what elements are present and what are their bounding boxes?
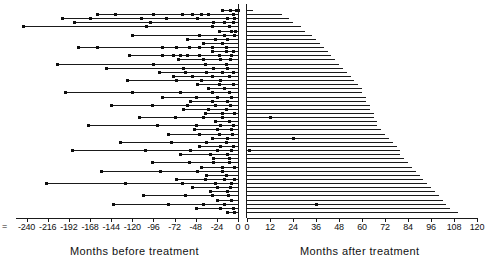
event-line-before xyxy=(217,200,238,201)
timeline-row-after xyxy=(247,59,479,60)
event-marker xyxy=(193,128,196,131)
axis-tick-label: 108 xyxy=(443,222,465,232)
event-marker xyxy=(226,100,229,103)
event-marker xyxy=(233,211,236,214)
timeline-row-before xyxy=(0,31,239,32)
event-marker xyxy=(151,104,154,107)
event-marker xyxy=(228,25,231,28)
followup-line-after xyxy=(247,167,412,168)
event-marker xyxy=(228,91,231,94)
event-marker xyxy=(230,30,233,33)
timeline-row-before xyxy=(0,117,239,118)
event-marker xyxy=(198,133,201,136)
timeline-row-after xyxy=(247,129,479,130)
event-line-before xyxy=(120,142,238,143)
event-marker xyxy=(196,170,199,173)
timeline-row-before xyxy=(0,158,239,159)
event-marker xyxy=(198,34,201,37)
followup-line-after xyxy=(247,72,347,73)
event-marker xyxy=(73,21,76,24)
timeline-row-after xyxy=(247,125,479,126)
axis-tick-label: -240 xyxy=(16,222,38,232)
followup-line-after xyxy=(247,113,374,114)
axis-tick-label: 72 xyxy=(374,222,396,232)
followup-line-after xyxy=(247,142,393,143)
event-marker xyxy=(214,182,217,185)
left-x-axis xyxy=(16,218,239,219)
event-line-before xyxy=(101,171,238,172)
followup-line-after xyxy=(247,68,343,69)
followup-line-after xyxy=(247,134,385,135)
timeline-row-after xyxy=(247,167,479,168)
axis-tick-label: -144 xyxy=(100,222,122,232)
event-marker xyxy=(232,13,235,16)
event-marker xyxy=(226,17,229,20)
event-marker xyxy=(225,46,228,49)
timeline-row-after xyxy=(247,154,479,155)
timeline-row-after xyxy=(247,138,479,139)
followup-line-after xyxy=(247,138,389,139)
followup-line-after xyxy=(247,150,400,151)
event-marker xyxy=(233,178,236,181)
followup-line-after xyxy=(247,26,301,27)
timeline-row-before xyxy=(0,92,239,93)
axis-tick-label: 12 xyxy=(259,222,281,232)
timeline-row-before xyxy=(0,39,239,40)
timeline-row-before xyxy=(0,10,239,11)
event-marker xyxy=(181,182,184,185)
followup-line-after xyxy=(247,146,397,147)
timeline-row-before xyxy=(0,68,239,69)
event-marker xyxy=(221,166,224,169)
event-marker xyxy=(221,170,224,173)
axis-tick-label: 24 xyxy=(282,222,304,232)
timeline-row-after xyxy=(247,80,479,81)
timeline-row-after xyxy=(247,22,479,23)
event-marker xyxy=(218,83,221,86)
event-marker xyxy=(223,34,226,37)
timeline-row-after xyxy=(247,43,479,44)
followup-line-after xyxy=(247,43,320,44)
timeline-row-before xyxy=(0,109,239,110)
timeline-row-before xyxy=(0,84,239,85)
followup-line-after xyxy=(247,195,439,196)
timeline-row-before xyxy=(0,76,239,77)
event-marker xyxy=(211,50,214,53)
event-marker xyxy=(202,42,205,45)
timeline-row-before xyxy=(0,18,239,19)
followup-line-after xyxy=(247,204,446,205)
timeline-row-before xyxy=(0,59,239,60)
axis-tick-label: -24 xyxy=(206,222,228,232)
timeline-row-before xyxy=(0,113,239,114)
event-marker xyxy=(216,128,219,131)
axis-tick-label: -120 xyxy=(121,222,143,232)
event-marker xyxy=(175,46,178,49)
event-marker xyxy=(223,21,226,24)
followup-line-after xyxy=(247,39,316,40)
followup-line-after xyxy=(247,92,362,93)
event-marker xyxy=(216,199,219,202)
followup-line-after xyxy=(247,35,312,36)
axis-tick-label: 84 xyxy=(397,222,419,232)
event-marker xyxy=(77,46,80,49)
timeline-row-after xyxy=(247,14,479,15)
event-marker xyxy=(233,34,236,37)
timeline-row-after xyxy=(247,26,479,27)
axis-tick-label: -168 xyxy=(79,222,101,232)
timeline-row-after xyxy=(247,76,479,77)
timeline-row-before xyxy=(0,195,239,196)
timeline-row-after xyxy=(247,47,479,48)
event-marker xyxy=(200,166,203,169)
event-marker xyxy=(191,75,194,78)
followup-line-after xyxy=(247,200,443,201)
event-marker xyxy=(200,13,203,16)
event-marker xyxy=(221,42,224,45)
event-line-before xyxy=(23,26,238,27)
timeline-row-before xyxy=(0,200,239,201)
event-line-before xyxy=(72,150,238,151)
event-marker xyxy=(219,79,222,82)
followup-line-after xyxy=(247,22,293,23)
axis-tick-label: 36 xyxy=(305,222,327,232)
event-line-before xyxy=(210,191,238,192)
event-marker xyxy=(228,157,231,160)
followup-line-after xyxy=(247,59,335,60)
